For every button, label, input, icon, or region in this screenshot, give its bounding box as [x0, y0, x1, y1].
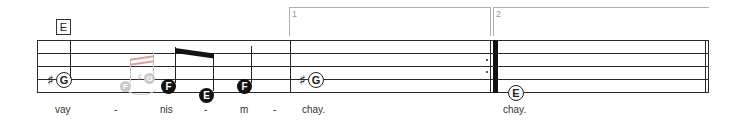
rehearsal-mark: E: [56, 19, 71, 35]
note-e: E: [508, 85, 524, 101]
ghost-slur: [125, 80, 157, 95]
note-g-sharp: G: [308, 72, 324, 88]
volta-bracket-2: [493, 7, 709, 36]
ghost-beam-2: [130, 60, 154, 65]
lyric-syllable: nis: [160, 104, 173, 115]
staff-line-3: [37, 66, 708, 67]
lyric-hyphen: -: [273, 104, 276, 115]
final-barline-thin-2: [708, 40, 709, 93]
lyric-syllable: m: [240, 104, 248, 115]
sharp-icon: ♯: [299, 73, 306, 87]
lyric-hyphen: -: [114, 104, 117, 115]
lyric-hyphen: -: [204, 104, 207, 115]
barline-measure: [290, 40, 291, 93]
note-stem: [70, 40, 71, 78]
volta-number-2: 2: [496, 9, 501, 19]
note-stem: [213, 53, 214, 91]
final-barline-thin: [705, 40, 706, 93]
volta-number-1: 1: [292, 9, 297, 19]
sharp-icon: ♯: [47, 73, 54, 87]
note-f: F: [161, 79, 176, 94]
eighth-beam: [175, 48, 214, 58]
repeat-dot-lower: [486, 71, 488, 73]
staff-line-1: [37, 40, 708, 41]
repeat-barline-thick: [493, 40, 498, 93]
volta-bracket-1: [289, 7, 491, 36]
lyric-syllable: chay.: [302, 104, 325, 115]
note-f: F: [237, 79, 252, 94]
lyric-syllable: vay: [55, 104, 71, 115]
barline-start: [37, 40, 38, 93]
repeat-barline-thin: [490, 40, 491, 93]
note-e: E: [199, 88, 214, 103]
repeat-dot-upper: [486, 59, 488, 61]
lyric-syllable: chay.: [503, 104, 526, 115]
note-stem: [251, 46, 252, 83]
staff-line-2: [37, 53, 708, 54]
